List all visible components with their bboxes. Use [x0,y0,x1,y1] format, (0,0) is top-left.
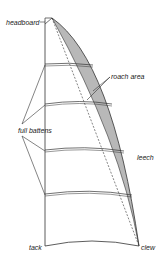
roach-area-label: roach area [111,73,145,80]
tack-label: tack [29,244,42,251]
headboard-label: headboard [6,19,41,26]
foot-line [45,241,139,246]
sail-diagram: headboard roach area full battens leech … [0,0,164,266]
headboard [45,18,52,24]
full-battens-label: full battens [18,127,52,134]
clew-label: clew [141,244,156,251]
head-clew-dashed-line [52,18,139,246]
leech-label: leech [137,154,154,161]
batten-4 [45,191,132,197]
